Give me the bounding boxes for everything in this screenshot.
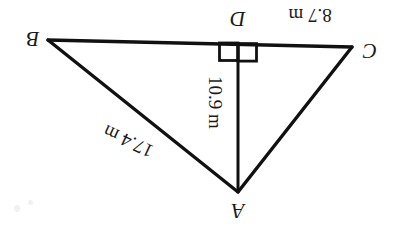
triangle-diagram: B C A D 8.7 m 10.9 m 17.4 m	[0, 0, 402, 234]
vertex-label-c: C	[359, 40, 381, 61]
triangle-figure-svg	[0, 0, 402, 234]
scan-artifact-speck	[14, 205, 20, 212]
side-ac-line	[238, 47, 352, 192]
side-bc-line	[48, 40, 352, 47]
measure-label-dc: 8.7 m	[268, 6, 352, 25]
scan-artifact-speck	[28, 200, 33, 205]
measure-label-ad: 10.9 m	[206, 51, 225, 155]
vertex-label-d: D	[227, 8, 249, 29]
vertex-label-a: A	[227, 200, 249, 221]
vertex-label-b: B	[22, 28, 44, 49]
